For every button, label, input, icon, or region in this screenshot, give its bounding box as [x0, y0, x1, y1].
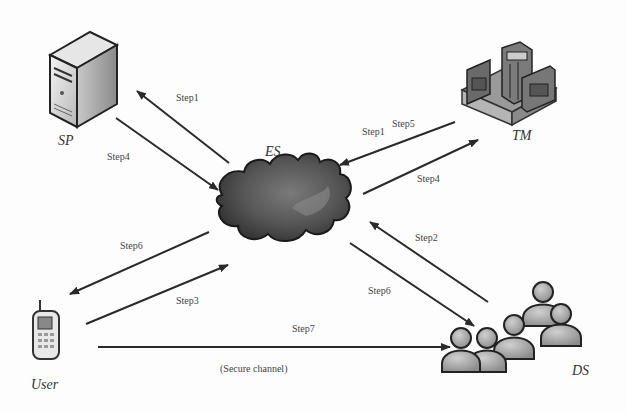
step-label: Step4 — [417, 173, 440, 184]
diagram-canvas — [0, 0, 627, 413]
step-label: Step2 — [415, 232, 438, 243]
mobile-phone-icon — [33, 300, 59, 359]
node-label-ds: DS — [572, 363, 589, 379]
building-icon — [462, 42, 556, 125]
server-icon — [50, 32, 117, 127]
step-label: Step4 — [107, 151, 130, 162]
arrow-es-to-tm-step4 — [363, 140, 478, 194]
step-label: Step3 — [176, 295, 199, 306]
node-label-sp: SP — [58, 133, 74, 149]
step-label: Step5 — [392, 118, 415, 129]
node-label-tm: TM — [512, 128, 531, 144]
node-label-es: ES — [265, 144, 281, 160]
people-group-icon — [442, 282, 581, 372]
cloud-icon — [217, 153, 351, 241]
step-label: Step1 — [176, 92, 199, 103]
arrow-sp-to-es-step4 — [116, 118, 218, 190]
step-label: Step6 — [120, 240, 143, 251]
node-label-user: User — [31, 377, 58, 393]
step-sublabel: (Secure channel) — [220, 363, 287, 374]
step-label: Step7 — [292, 323, 315, 334]
step-label: Step6 — [368, 285, 391, 296]
arrow-user-to-es-step3 — [86, 265, 228, 324]
step-label: Step1 — [362, 126, 385, 137]
